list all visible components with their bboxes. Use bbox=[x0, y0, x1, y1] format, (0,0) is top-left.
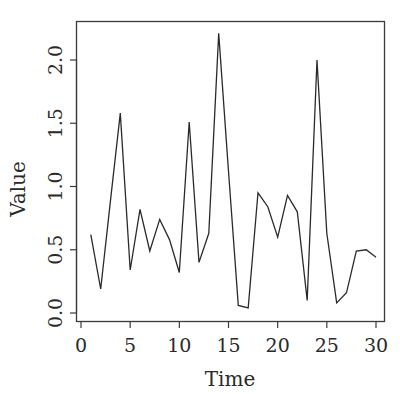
plot-frame bbox=[77, 22, 385, 322]
y-tick-label: 1.5 bbox=[44, 108, 66, 138]
y-tick-label: 0.0 bbox=[44, 298, 66, 328]
x-tick-label: 25 bbox=[315, 334, 339, 356]
x-tick-label: 15 bbox=[216, 334, 240, 356]
y-tick-label: 2.0 bbox=[44, 45, 66, 75]
x-tick-label: 20 bbox=[266, 334, 290, 356]
time-series-chart: 051015202530 0.00.51.01.52.0 Time Value bbox=[0, 0, 400, 394]
y-tick-label: 1.0 bbox=[44, 171, 66, 201]
y-tick-label: 0.5 bbox=[44, 235, 66, 265]
x-tick-label: 30 bbox=[364, 334, 388, 356]
x-tick-label: 10 bbox=[167, 334, 191, 356]
x-tick-label: 0 bbox=[75, 334, 87, 356]
x-tick-label: 5 bbox=[124, 334, 136, 356]
y-axis: 0.00.51.01.52.0 bbox=[44, 45, 77, 328]
x-axis-title: Time bbox=[205, 367, 256, 391]
data-line bbox=[91, 33, 376, 308]
y-axis-title: Value bbox=[6, 161, 30, 218]
x-axis: 051015202530 bbox=[75, 322, 388, 357]
